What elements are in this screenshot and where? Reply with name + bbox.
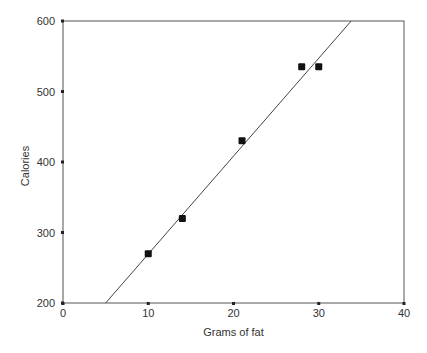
y-tick-label: 600 [37, 15, 55, 27]
y-tick-mark [61, 20, 64, 23]
data-point-marker [315, 63, 322, 70]
y-tick-label: 300 [37, 227, 55, 239]
x-tick-mark [62, 302, 65, 305]
y-tick-mark [61, 90, 64, 93]
fit-line-layer [106, 21, 352, 303]
regression-line [106, 21, 352, 303]
scatter-chart: 200300400500600 010203040 Grams of fat C… [0, 0, 427, 353]
y-tick-label: 200 [37, 297, 55, 309]
data-point-marker [239, 137, 246, 144]
y-tick-label: 500 [37, 86, 55, 98]
y-tick-label: 400 [37, 156, 55, 168]
x-tick-label: 0 [60, 307, 66, 319]
data-point-marker [145, 250, 152, 257]
x-tick-label: 30 [313, 307, 325, 319]
x-tick-mark [317, 302, 320, 305]
chart-canvas: 200300400500600 010203040 Grams of fat C… [0, 0, 427, 353]
x-tick-label: 40 [398, 307, 410, 319]
x-axis-title: Grams of fat [203, 326, 264, 338]
y-tick-mark [61, 231, 64, 234]
y-axis-ticks: 200300400500600 [37, 15, 64, 309]
x-axis-ticks: 010203040 [60, 302, 410, 319]
x-tick-label: 20 [227, 307, 239, 319]
plot-area-frame [63, 21, 404, 303]
data-point-marker [179, 215, 186, 222]
x-tick-mark [403, 302, 406, 305]
data-point-marker [298, 63, 305, 70]
x-tick-mark [232, 302, 235, 305]
y-axis-title: Calories [19, 145, 31, 186]
x-tick-label: 10 [142, 307, 154, 319]
x-tick-mark [147, 302, 150, 305]
y-tick-mark [61, 161, 64, 164]
